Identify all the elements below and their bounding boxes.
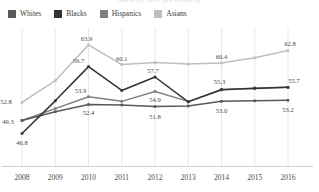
data-point-marker — [21, 132, 24, 135]
legend-label: Blacks — [66, 10, 86, 18]
legend-item-whites[interactable]: Whites — [8, 10, 41, 18]
x-axis-tick-2014: 2014 — [214, 173, 229, 182]
data-point-marker — [120, 104, 123, 107]
legend-swatch-icon — [100, 10, 108, 18]
data-label: 53.2 — [282, 106, 294, 113]
chart-legend: WhitesBlacksHispanicsAsians — [8, 8, 200, 20]
clipped-title-text: Share by race and ethnicity — [0, 0, 319, 4]
legend-item-asians[interactable]: Asians — [154, 10, 186, 18]
data-point-marker — [54, 110, 57, 113]
data-point-marker — [154, 61, 157, 64]
data-point-marker — [21, 101, 24, 104]
data-point-marker — [87, 44, 90, 47]
data-point-marker — [87, 95, 90, 98]
data-point-marker — [87, 65, 90, 68]
legend-swatch-icon — [8, 10, 16, 18]
clipped-title: Share by race and ethnicity — [0, 0, 319, 6]
data-point-marker — [253, 57, 256, 60]
legend-swatch-icon — [54, 10, 62, 18]
data-label: 62.8 — [284, 40, 296, 47]
data-label: 53.0 — [216, 107, 228, 114]
data-point-marker — [287, 49, 290, 52]
line-chart-svg: 49.352.451.853.053.246.859.757.755.355.7… — [0, 24, 319, 170]
data-point-marker — [54, 79, 57, 82]
data-label: 55.3 — [214, 78, 226, 85]
data-point-marker — [120, 89, 123, 92]
data-point-marker — [21, 119, 24, 122]
data-point-marker — [154, 76, 157, 79]
data-label: 52.8 — [0, 98, 12, 105]
data-label: 49.3 — [2, 118, 14, 125]
x-axis-tick-2015: 2015 — [247, 173, 262, 182]
data-point-marker — [187, 63, 190, 66]
data-label: 63.9 — [81, 35, 93, 42]
data-point-marker — [253, 87, 256, 90]
legend-label: Whites — [20, 10, 41, 18]
data-point-marker — [154, 90, 157, 93]
data-label: 57.7 — [147, 67, 159, 74]
data-point-marker — [120, 63, 123, 66]
data-point-marker — [253, 100, 256, 103]
x-axis-tick-2013: 2013 — [181, 173, 196, 182]
x-axis-tick-2009: 2009 — [48, 173, 63, 182]
plot-area: 49.352.451.853.053.246.859.757.755.355.7… — [0, 24, 319, 170]
data-point-marker — [220, 62, 223, 65]
legend-label: Asians — [166, 10, 186, 18]
x-axis-labels: 200820092010201120122013201420152016 — [0, 170, 319, 192]
x-axis-tick-2016: 2016 — [281, 173, 296, 182]
data-point-marker — [187, 101, 190, 104]
data-label: 53.9 — [75, 87, 87, 94]
data-label: 52.4 — [83, 109, 95, 116]
data-point-marker — [220, 100, 223, 103]
data-label: 59.7 — [73, 57, 85, 64]
data-point-marker — [220, 88, 223, 91]
data-label: 60.4 — [216, 53, 228, 60]
x-axis-tick-2010: 2010 — [81, 173, 96, 182]
data-label: 54.9 — [149, 96, 161, 103]
legend-label: Hispanics — [112, 10, 142, 18]
data-point-marker — [87, 103, 90, 106]
x-axis-tick-2011: 2011 — [114, 173, 129, 182]
data-label: 60.1 — [116, 55, 128, 62]
legend-swatch-icon — [154, 10, 162, 18]
x-axis-tick-2012: 2012 — [148, 173, 163, 182]
data-point-marker — [154, 105, 157, 108]
chart-container: Share by race and ethnicity WhitesBlacks… — [0, 0, 319, 192]
data-label: 46.8 — [16, 139, 28, 146]
data-label: 55.7 — [288, 77, 300, 84]
data-point-marker — [287, 99, 290, 102]
data-point-marker — [187, 105, 190, 108]
legend-item-hispanics[interactable]: Hispanics — [100, 10, 142, 18]
x-axis-tick-2008: 2008 — [15, 173, 30, 182]
legend-item-blacks[interactable]: Blacks — [54, 10, 86, 18]
data-point-marker — [287, 86, 290, 89]
data-point-marker — [54, 100, 57, 103]
data-point-marker — [54, 107, 57, 110]
data-label: 51.8 — [149, 113, 161, 120]
data-point-marker — [120, 100, 123, 103]
